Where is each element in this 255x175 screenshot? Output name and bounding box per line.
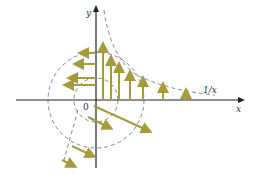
arrow-diag-1 <box>94 106 149 131</box>
vector-field-diagram: y x 0 1/x <box>0 0 255 175</box>
hyperbola-curve <box>104 10 215 95</box>
arrow-diag-2 <box>88 117 110 128</box>
arrow-diag-4 <box>62 160 74 166</box>
x-axis-label: x <box>236 104 241 114</box>
dashed-diagonal-line <box>64 110 78 160</box>
origin-label: 0 <box>83 102 89 112</box>
arrow-diag-3 <box>72 146 93 156</box>
y-axis-label: y <box>85 8 92 18</box>
diagonal-arrows <box>62 106 149 166</box>
leftward-arrows <box>66 53 96 85</box>
curve-label: 1/x <box>203 85 217 95</box>
upward-arrows <box>103 45 186 100</box>
